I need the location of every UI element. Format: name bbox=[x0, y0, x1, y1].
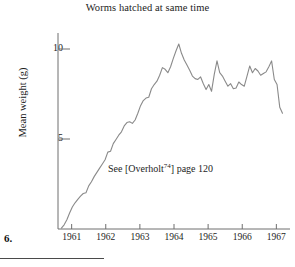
x-tick-label-1962: 1962 bbox=[96, 232, 115, 242]
x-tick-label-1964: 1964 bbox=[165, 232, 184, 242]
annotation-superscript: 74 bbox=[164, 162, 171, 170]
footnote-rule bbox=[0, 258, 104, 259]
x-tick-label-1967: 1967 bbox=[267, 232, 286, 242]
x-tick-label-1966: 1966 bbox=[233, 232, 252, 242]
weight-series-line bbox=[61, 44, 282, 228]
chart-annotation: See [Overholt74] page 120 bbox=[108, 163, 213, 174]
x-tick-label-1963: 1963 bbox=[130, 232, 149, 242]
x-tick-label-1965: 1965 bbox=[199, 232, 218, 242]
chart-axes bbox=[58, 33, 290, 229]
figure-number-label: 6. bbox=[4, 232, 12, 244]
annotation-prefix: See [Overholt bbox=[108, 163, 164, 174]
chart-plot-area bbox=[0, 0, 295, 267]
x-axis-tick-labels: 1961196219631964196519661967 bbox=[0, 232, 295, 248]
annotation-suffix: ] page 120 bbox=[171, 163, 213, 174]
x-axis-tick-marks bbox=[72, 224, 277, 229]
x-tick-label-1961: 1961 bbox=[62, 232, 81, 242]
figure-panel: Worms hatched at same time Mean weight (… bbox=[0, 0, 295, 267]
